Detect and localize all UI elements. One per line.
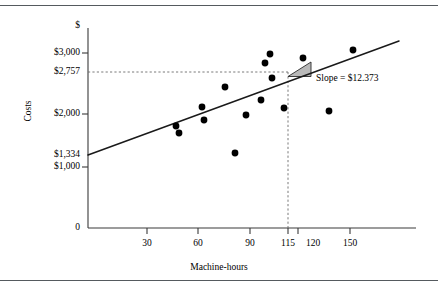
figure-container: $ $3,000 $2,757 $2,000 $1,334 $1,000 0 3…: [0, 0, 438, 292]
y-tick-label-1000: $1,000: [24, 162, 80, 172]
y-axis-currency-marker: $: [38, 21, 80, 31]
y-axis-title: Costs: [23, 81, 33, 141]
data-point: [199, 104, 206, 111]
regression-line: [88, 41, 399, 155]
data-point: [232, 150, 239, 157]
data-point: [269, 75, 276, 82]
data-point: [173, 123, 180, 130]
x-axis-title: Machine-hours: [0, 262, 438, 272]
data-point: [201, 117, 208, 124]
data-point: [350, 47, 357, 54]
data-point: [300, 55, 307, 62]
x-tick-label-60: 60: [182, 239, 214, 249]
x-tick-label-120: 120: [297, 239, 329, 249]
y-tick-label-1334: $1,334: [24, 150, 80, 160]
data-point: [262, 60, 269, 67]
slope-annotation-label: Slope = $12.373: [316, 73, 379, 83]
data-point: [176, 130, 183, 137]
data-point: [267, 51, 274, 58]
y-tick-label-2757: $2,757: [24, 67, 80, 77]
data-point: [258, 97, 265, 104]
data-point: [243, 112, 250, 119]
data-point: [326, 108, 333, 115]
data-point: [222, 84, 229, 91]
data-point: [281, 105, 288, 112]
x-tick-label-90: 90: [234, 239, 266, 249]
y-tick-label-0: 0: [24, 223, 80, 233]
y-tick-label-3000: $3,000: [24, 48, 80, 58]
scatter-plot-canvas: [0, 0, 438, 292]
x-tick-label-30: 30: [131, 239, 163, 249]
x-tick-label-150: 150: [334, 239, 366, 249]
